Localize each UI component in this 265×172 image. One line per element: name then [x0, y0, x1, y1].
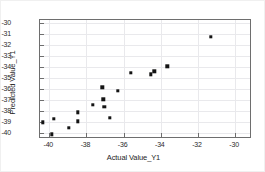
data-point: [91, 103, 94, 106]
y-axis-tick-label: -37: [1, 95, 11, 102]
gridline-horizontal: [40, 133, 250, 134]
y-axis-tick-label: -36: [1, 84, 11, 91]
data-point: [102, 105, 105, 108]
data-point: [101, 98, 104, 101]
gridline-vertical: [235, 20, 236, 137]
gridline-vertical: [86, 20, 87, 137]
x-axis-tick-label: -40: [44, 141, 54, 148]
data-point: [116, 89, 119, 92]
gridline-horizontal: [40, 89, 250, 90]
x-axis-tick-label: -32: [192, 141, 202, 148]
x-axis-title: Actual Value_Y1: [1, 153, 265, 162]
plot-area: [39, 19, 251, 138]
data-point: [153, 70, 156, 73]
data-point: [76, 111, 79, 114]
gridline-horizontal: [40, 122, 250, 123]
y-axis-tick-label: -34: [1, 63, 11, 70]
y-axis-tick-label: -35: [1, 73, 11, 80]
y-axis-tick: [40, 34, 44, 35]
data-point: [108, 116, 111, 119]
y-axis-tick-label: -39: [1, 117, 11, 124]
data-point: [52, 117, 55, 120]
data-point: [101, 86, 104, 89]
x-axis-tick: [235, 133, 236, 137]
data-point: [166, 65, 169, 68]
gridline-vertical: [124, 20, 125, 137]
y-axis-tick-label: -33: [1, 52, 11, 59]
data-point: [41, 121, 44, 124]
gridline-horizontal: [40, 111, 250, 112]
gridline-vertical: [198, 20, 199, 137]
x-axis-tick-label: -36: [118, 141, 128, 148]
y-axis-tick-label: -31: [1, 30, 11, 37]
y-axis-tick-label: -38: [1, 106, 11, 113]
y-axis-tick: [40, 78, 44, 79]
gridline-horizontal: [40, 45, 250, 46]
gridline-horizontal: [40, 100, 250, 101]
x-axis-tick: [86, 133, 87, 137]
x-axis-tick: [124, 133, 125, 137]
y-axis-tick: [40, 23, 44, 24]
data-point: [209, 35, 212, 38]
x-axis-tick-label: -34: [155, 141, 165, 148]
x-axis-tick: [161, 133, 162, 137]
y-axis-tick: [40, 56, 44, 57]
y-axis-tick-label: -40: [1, 128, 11, 135]
x-axis-tick-label: -30: [229, 141, 239, 148]
data-point: [129, 71, 132, 74]
y-axis-tick-label: -30: [1, 19, 11, 26]
gridline-horizontal: [40, 34, 250, 35]
y-axis-tick: [40, 89, 44, 90]
y-axis-tick: [40, 100, 44, 101]
y-axis-tick: [40, 133, 44, 134]
x-axis-tick-label: -38: [81, 141, 91, 148]
gridline-vertical: [161, 20, 162, 137]
data-point: [50, 133, 53, 136]
y-axis-tick: [40, 67, 44, 68]
gridline-horizontal: [40, 78, 250, 79]
data-point: [76, 119, 79, 122]
y-axis-tick-label: -32: [1, 41, 11, 48]
y-axis-tick: [40, 45, 44, 46]
x-axis-tick: [198, 133, 199, 137]
gridline-horizontal: [40, 23, 250, 24]
data-point: [67, 126, 70, 129]
y-axis-tick: [40, 111, 44, 112]
gridline-horizontal: [40, 56, 250, 57]
gridline-horizontal: [40, 67, 250, 68]
gridline-vertical: [49, 20, 50, 137]
scatter-plot-figure: Actual Value_Y1 Predicted Value_Y1 -30-3…: [0, 0, 265, 172]
